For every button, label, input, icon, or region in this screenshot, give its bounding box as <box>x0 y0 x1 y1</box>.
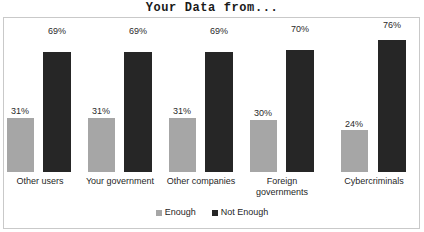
category-label-1: Your government <box>79 176 161 187</box>
bar-value-notenough-2: 69% <box>203 26 235 36</box>
bar-enough-2 <box>169 118 196 172</box>
category-label-3-line1: Foreign <box>241 176 323 187</box>
category-label-4: Cybercriminals <box>333 176 415 187</box>
bar-value-notenough-0: 69% <box>41 26 73 36</box>
chart-legend: Enough Not Enough <box>0 207 424 218</box>
category-label-3-line2: governments <box>241 187 323 198</box>
legend-item-not-enough[interactable]: Not Enough <box>212 207 269 218</box>
plot-area: 31% 69% Other users 31% 69% Your governm… <box>0 0 424 232</box>
bar-value-enough-0: 31% <box>4 106 36 116</box>
bar-value-enough-2: 31% <box>166 106 198 116</box>
bar-notenough-2 <box>205 52 233 172</box>
bar-value-enough-3: 30% <box>247 108 279 118</box>
legend-swatch-enough-icon <box>156 210 162 216</box>
bar-value-enough-4: 24% <box>338 119 370 129</box>
bar-enough-1 <box>88 118 115 172</box>
category-label-0: Other users <box>0 176 80 187</box>
legend-item-enough[interactable]: Enough <box>156 207 196 218</box>
category-label-4-text: Cybercriminals <box>344 176 404 186</box>
bar-value-enough-1: 31% <box>85 106 117 116</box>
bar-notenough-0 <box>43 52 71 172</box>
chart-container: Your Data from... 31% 69% Other users 31… <box>0 0 424 232</box>
legend-label-not-enough: Not Enough <box>221 207 269 218</box>
bar-enough-0 <box>7 118 34 172</box>
bar-value-notenough-1: 69% <box>122 26 154 36</box>
bar-enough-3 <box>250 120 277 172</box>
legend-swatch-not-enough-icon <box>212 210 218 216</box>
category-label-3: Foreign governments <box>241 176 323 198</box>
legend-label-enough: Enough <box>165 207 196 218</box>
category-label-2: Other companies <box>160 176 242 187</box>
bar-notenough-4 <box>378 40 406 172</box>
bar-value-notenough-4: 76% <box>376 20 408 30</box>
bar-notenough-1 <box>124 52 152 172</box>
bar-notenough-3 <box>286 50 314 172</box>
bar-value-notenough-3: 70% <box>284 24 316 34</box>
bar-enough-4 <box>341 130 368 172</box>
